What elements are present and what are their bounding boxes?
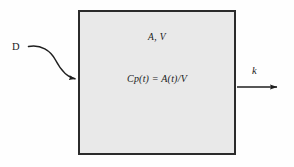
compartment-amount-volume-label: A, V <box>78 33 236 43</box>
dose-input-arrow <box>29 46 76 79</box>
elimination-rate-label: k <box>252 66 257 77</box>
concentration-equation-label: Cp(t) = A(t)/V <box>78 74 236 84</box>
dose-input-label: D <box>12 42 20 53</box>
compartment-model-figure: A, V Cp(t) = A(t)/V D k <box>0 0 294 167</box>
